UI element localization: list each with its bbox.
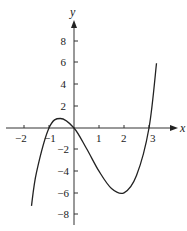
y-tick-label: 4 (61, 78, 67, 90)
y-tick-label: 6 (61, 56, 67, 68)
x-tick-label: 2 (121, 132, 127, 144)
y-tick-label: 2 (61, 100, 67, 112)
y-tick-label: 8 (61, 35, 67, 47)
x-tick-label: 3 (150, 132, 156, 144)
x-axis-label: x (179, 121, 186, 135)
y-tick-label: −4 (57, 165, 69, 177)
y-tick-label: −2 (57, 143, 69, 155)
x-tick-label: −2 (15, 132, 27, 144)
y-tick-label: −8 (57, 208, 69, 220)
y-axis-arrow-icon (71, 20, 77, 28)
x-tick-label: 1 (96, 132, 102, 144)
y-axis-label: y (69, 5, 76, 19)
cubic-function-graph: x y −2 −1 1 2 3 8 6 4 2 −2 −4 −6 −8 (0, 0, 187, 231)
x-axis-arrow-icon (170, 125, 178, 131)
y-tick-label: −6 (57, 187, 69, 199)
